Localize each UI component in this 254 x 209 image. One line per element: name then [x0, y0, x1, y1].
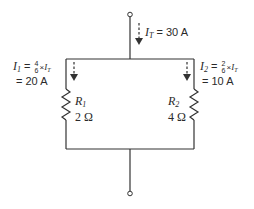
- bottom-terminal-icon: [128, 191, 133, 196]
- branch1-fraction: 46: [35, 60, 39, 74]
- r1-subscript: 1: [82, 100, 86, 109]
- r2-value: 4 Ω: [168, 111, 186, 123]
- total-current-label: IT = 30 A: [145, 26, 188, 42]
- circuit-diagram: [0, 0, 254, 209]
- branch1-current-arrow-icon: [70, 74, 78, 81]
- branch2-fraction-denominator: 6: [222, 67, 226, 74]
- branch2-result-value: = 10 A: [202, 75, 234, 87]
- branch2-fraction: 26: [222, 60, 226, 74]
- resistor-r2-icon: [190, 89, 198, 120]
- branch1-current-subscript: 1: [17, 65, 21, 74]
- branch1-current-result: = 20 A: [16, 75, 48, 87]
- r2-subscript: 2: [175, 100, 179, 109]
- top-terminal-icon: [128, 12, 133, 17]
- branch2-fraction-numerator: 2: [222, 60, 226, 67]
- branch2-current-subscript: 2: [204, 65, 208, 74]
- total-current-value: = 30 A: [157, 26, 189, 38]
- resistor-r2-label: R2 4 Ω: [168, 95, 186, 123]
- branch2-current-formula: I2 = 26×IT: [200, 60, 237, 76]
- branch1-fraction-denominator: 6: [35, 67, 39, 74]
- total-current-subscript: T: [149, 31, 153, 40]
- resistor-r1-icon: [62, 89, 70, 120]
- branch1-current-formula: I1 = 46×IT: [13, 60, 50, 76]
- resistor-r1-label: R1 2 Ω: [75, 95, 93, 123]
- branch1-ref-subscript: T: [47, 67, 50, 73]
- r1-value: 2 Ω: [75, 111, 93, 123]
- branch1-fraction-numerator: 4: [35, 60, 39, 67]
- branch2-ref-subscript: T: [234, 67, 237, 73]
- branch1-result-value: = 20 A: [16, 75, 48, 87]
- branch2-current-arrow-icon: [183, 74, 191, 81]
- total-current-arrow-icon: [135, 38, 143, 45]
- branch2-current-result: = 10 A: [202, 75, 234, 87]
